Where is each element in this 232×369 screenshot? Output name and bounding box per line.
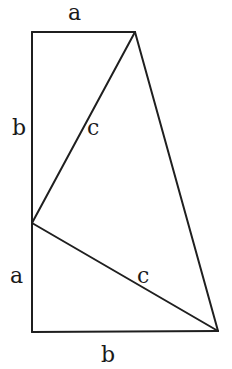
label-left-a: a	[10, 263, 23, 288]
label-lower-c: c	[137, 263, 149, 288]
label-top-a: a	[68, 0, 81, 25]
label-bottom-b: b	[101, 342, 115, 367]
edge-bottom-b	[32, 331, 218, 332]
hypotenuse-upper-c	[32, 32, 135, 223]
hypotenuse-lower-c	[32, 223, 218, 331]
label-left-b: b	[12, 115, 26, 140]
pythagorean-trapezoid-diagram: a b c a c b	[0, 0, 232, 369]
label-upper-c: c	[87, 115, 99, 140]
